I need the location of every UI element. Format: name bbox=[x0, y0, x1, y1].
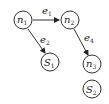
edge-label-e2: e2 bbox=[40, 34, 50, 46]
edge-label-e1: e1 bbox=[42, 5, 52, 17]
node-S2: S2 bbox=[83, 80, 101, 98]
node-n1: n1 bbox=[14, 11, 32, 29]
node-n2: n2 bbox=[61, 11, 79, 29]
node-S1: S1 bbox=[41, 53, 59, 71]
edge-label-e4: e4 bbox=[84, 32, 94, 44]
node-n3: n3 bbox=[83, 55, 101, 73]
graph-diagram: e1 e2 e4 n1 n2 S1 n3 S2 bbox=[0, 0, 109, 104]
